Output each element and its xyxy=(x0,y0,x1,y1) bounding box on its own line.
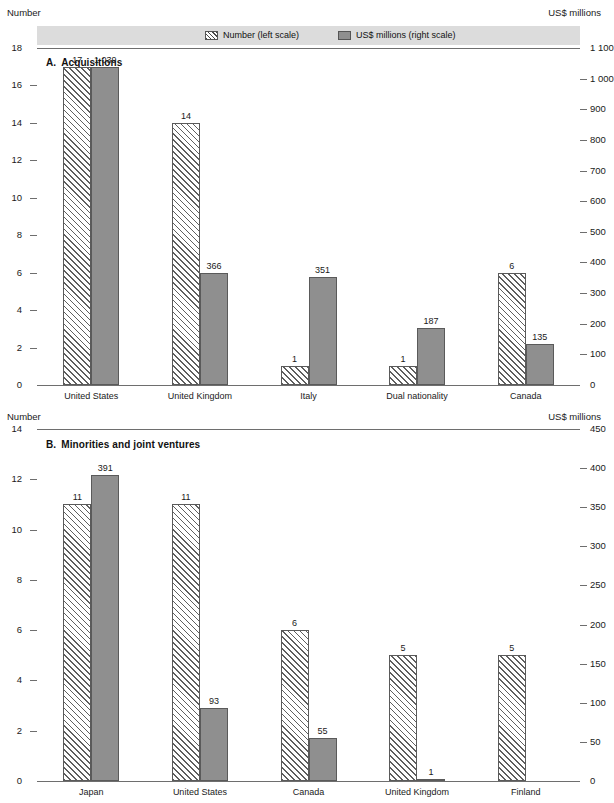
right_ticks-tick-label: 350 xyxy=(590,501,606,512)
tick-mark xyxy=(580,546,587,547)
panel-b-baseline xyxy=(37,781,580,782)
bar-number xyxy=(498,655,526,781)
left_ticks-tick-label: 2 xyxy=(0,725,22,736)
tick-mark xyxy=(30,580,37,581)
bar-value-label-usd: 1 xyxy=(407,767,455,777)
panel-b-top-line xyxy=(37,429,580,430)
tick-mark xyxy=(580,742,587,743)
tick-mark xyxy=(580,703,587,704)
left_ticks-tick-label: 12 xyxy=(0,473,22,484)
right_ticks-tick-label: 450 xyxy=(590,423,606,434)
left_ticks-tick-label: 14 xyxy=(0,423,22,434)
left_ticks-tick-label: 4 xyxy=(0,674,22,685)
tick-mark xyxy=(30,731,37,732)
category-label: Finland xyxy=(466,787,586,797)
bar-value-label-usd: 93 xyxy=(190,696,238,706)
category-label: Japan xyxy=(31,787,151,797)
bar-number xyxy=(172,504,200,781)
right_ticks-tick-label: 100 xyxy=(590,697,606,708)
left_ticks-tick-label: 10 xyxy=(0,524,22,535)
bar-value-label-number: 5 xyxy=(488,643,536,653)
category-label: Canada xyxy=(249,787,369,797)
bar-value-label-number: 5 xyxy=(379,643,427,653)
tick-mark xyxy=(580,585,587,586)
bar-value-label-number: 11 xyxy=(162,492,210,502)
right_ticks-tick-label: 400 xyxy=(590,462,606,473)
bar-usd xyxy=(417,779,445,781)
tick-mark xyxy=(30,479,37,480)
tick-mark xyxy=(580,468,587,469)
left_ticks-tick-label: 0 xyxy=(0,775,22,786)
right_ticks-tick-label: 250 xyxy=(590,579,606,590)
tick-mark xyxy=(580,664,587,665)
bar-usd xyxy=(309,738,337,781)
category-label: United States xyxy=(140,787,260,797)
bar-number xyxy=(63,504,91,781)
tick-mark xyxy=(30,630,37,631)
right_ticks-tick-label: 0 xyxy=(590,775,595,786)
bar-number xyxy=(389,655,417,781)
left_ticks-tick-label: 8 xyxy=(0,574,22,585)
bar-value-label-usd: 391 xyxy=(81,463,129,473)
bar-usd xyxy=(91,475,119,781)
left_ticks-tick-label: 6 xyxy=(0,624,22,635)
tick-mark xyxy=(30,530,37,531)
tick-mark xyxy=(580,507,587,508)
tick-mark xyxy=(30,680,37,681)
right_ticks-tick-label: 300 xyxy=(590,540,606,551)
bar-number xyxy=(281,630,309,781)
bar-value-label-usd: 55 xyxy=(299,726,347,736)
right_ticks-tick-label: 50 xyxy=(590,736,601,747)
right_ticks-tick-label: 150 xyxy=(590,658,606,669)
category-label: United Kingdom xyxy=(357,787,477,797)
right_ticks-tick-label: 200 xyxy=(590,619,606,630)
tick-mark xyxy=(580,625,587,626)
bar-value-label-number: 6 xyxy=(271,618,319,628)
bar-usd xyxy=(200,708,228,781)
